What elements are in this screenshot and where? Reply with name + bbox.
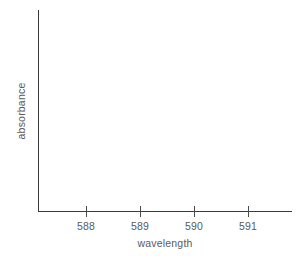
x-axis-label: wavelength [136,237,192,249]
x-tick-label-0: 588 [77,220,95,232]
chart-figure: 588 589 590 591 wavelength absorbance [0,0,305,270]
x-tick-label-2: 590 [185,220,203,232]
chart-canvas: 588 589 590 591 wavelength absorbance [0,0,305,270]
x-axis-tick-labels: 588 589 590 591 [77,220,257,232]
plot-area [38,10,292,211]
x-tick-label-3: 591 [239,220,257,232]
y-axis-label: absorbance [15,83,27,140]
x-tick-label-1: 589 [131,220,149,232]
